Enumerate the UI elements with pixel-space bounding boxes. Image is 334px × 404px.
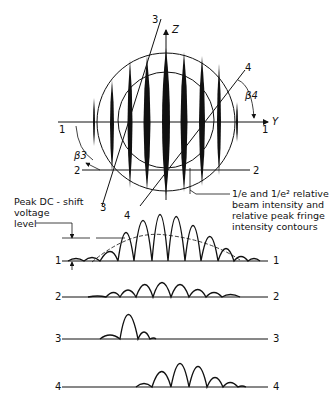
waveform-4-right-label: 4 xyxy=(273,381,279,392)
label-line2-left: 2 xyxy=(74,165,80,176)
waveform-4-left-label: 4 xyxy=(55,381,61,392)
waveform-1-left-label: 1 xyxy=(55,255,61,266)
contour-annotation: 1/e and 1/e² relative beam intensity and… xyxy=(232,188,329,232)
contour-line-2: beam intensity and xyxy=(232,199,329,210)
dc-line-1: Peak DC - shift xyxy=(14,196,84,207)
beta4-label: β4 xyxy=(245,90,258,101)
dc-shift-annotation: Peak DC - shift voltage level xyxy=(14,196,84,229)
waveform-3-left-label: 3 xyxy=(55,333,61,344)
label-line1-left: 1 xyxy=(59,124,65,135)
contour-leader xyxy=(190,190,230,194)
waveform-1-right-label: 1 xyxy=(273,255,279,266)
waveform-3 xyxy=(100,315,156,340)
waveform-2 xyxy=(88,283,240,298)
dc-line-2: voltage xyxy=(14,207,84,218)
contour-line-3: relative peak fringe xyxy=(232,210,329,221)
label-line2-right: 2 xyxy=(253,165,259,176)
waveform-3-right-label: 3 xyxy=(273,333,279,344)
waveform-4 xyxy=(136,364,246,388)
dc-line-3: level xyxy=(14,218,84,229)
z-axis-label: Z xyxy=(172,24,179,35)
label-line3-bottom: 3 xyxy=(100,202,106,213)
label-line4-top: 4 xyxy=(245,62,251,73)
label-line4-bottom: 4 xyxy=(124,210,130,221)
beta3-label: β3 xyxy=(74,150,87,161)
contour-line-4: intensity contours xyxy=(232,221,329,232)
label-line1-right: 1 xyxy=(262,124,268,135)
waveform-2-right-label: 2 xyxy=(273,291,279,302)
contour-line-1: 1/e and 1/e² relative xyxy=(232,188,329,199)
waveform-2-left-label: 2 xyxy=(55,291,61,302)
label-line3-top: 3 xyxy=(152,14,158,25)
y-axis-label: Y xyxy=(272,116,278,127)
